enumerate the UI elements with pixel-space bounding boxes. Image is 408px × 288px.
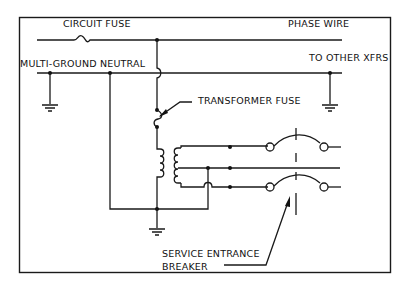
label-to-other-xfrs: TO OTHER XFRS <box>308 52 389 63</box>
primary-feed <box>157 40 161 110</box>
ground-icon <box>322 73 338 111</box>
junction-dot <box>228 145 232 149</box>
label-service-entrance: SERVICE ENTRANCE <box>162 248 260 259</box>
secondary-top-lead <box>181 146 268 148</box>
label-multi-ground-neutral: MULTI-GROUND NEUTRAL <box>20 58 146 69</box>
transformer-fuse <box>154 110 162 127</box>
label-circuit-fuse: CIRCUIT FUSE <box>63 18 131 29</box>
label-breaker: BREAKER <box>162 261 208 272</box>
junction-dot <box>228 166 232 170</box>
label-transformer-fuse: TRANSFORMER FUSE <box>197 95 301 106</box>
primary-winding <box>157 127 164 209</box>
secondary-winding <box>174 148 181 183</box>
breaker-pole-top <box>266 135 341 151</box>
label-phase-wire: PHASE WIRE <box>288 18 349 29</box>
ground-icon <box>42 73 58 111</box>
neutral-return <box>110 73 208 209</box>
phase-wire <box>37 36 342 42</box>
arrowhead-icon <box>285 196 290 207</box>
junction-dot <box>228 185 232 189</box>
ground-icon <box>149 209 165 235</box>
secondary-bottom-lead <box>181 183 268 188</box>
wiring-diagram: CIRCUIT FUSE PHASE WIRE MULTI-GROUND NEU… <box>0 0 408 288</box>
breaker-pole-bottom <box>266 175 341 191</box>
